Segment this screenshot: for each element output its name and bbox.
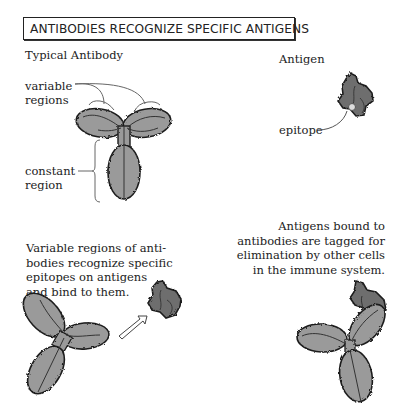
epitope-pointer: [318, 104, 356, 131]
diagram-illustrations: [0, 0, 413, 413]
free-antigen: [148, 281, 181, 318]
variable-regions-pointer: [75, 84, 160, 112]
binding-antibody: [15, 286, 110, 400]
tagged-antibody: [296, 298, 392, 404]
antigen: [338, 73, 373, 116]
constant-region-pointer: [78, 140, 100, 202]
arrow-icon: [119, 316, 147, 339]
